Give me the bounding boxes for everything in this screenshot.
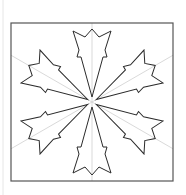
- snowflake-arm: [73, 107, 111, 175]
- snowflake-diagram: [0, 0, 186, 195]
- snowflake-arm: [73, 29, 111, 97]
